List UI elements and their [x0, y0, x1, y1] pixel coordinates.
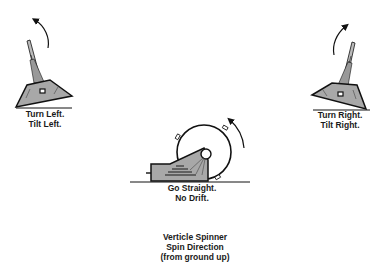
- left-robot-icon: [16, 20, 72, 108]
- right-spin-arrow-icon: [334, 26, 347, 55]
- right-label-line1: Turn Right.: [306, 110, 374, 120]
- right-figure-label: Turn Right. Tilt Right.: [306, 110, 374, 130]
- left-spin-arrow-icon: [35, 20, 48, 48]
- left-label-line1: Turn Left.: [14, 109, 76, 119]
- left-figure-label: Turn Left. Tilt Left.: [14, 109, 76, 129]
- center-robot-icon: [130, 120, 250, 182]
- center-figure-label: Go Straight. No Drift.: [155, 183, 229, 203]
- center-label-line2: No Drift.: [155, 193, 229, 203]
- center-label-line1: Go Straight.: [155, 183, 229, 193]
- diagram-caption: Verticle Spinner Spin Direction (from gr…: [145, 232, 245, 262]
- center-spin-arrow-icon: [230, 120, 244, 148]
- right-label-line2: Tilt Right.: [306, 120, 374, 130]
- right-robot-icon: [312, 26, 370, 110]
- caption-line3: (from ground up): [145, 252, 245, 262]
- caption-line1: Verticle Spinner: [145, 232, 245, 242]
- left-label-line2: Tilt Left.: [14, 119, 76, 129]
- diagram-canvas: [0, 0, 386, 268]
- caption-line2: Spin Direction: [145, 242, 245, 252]
